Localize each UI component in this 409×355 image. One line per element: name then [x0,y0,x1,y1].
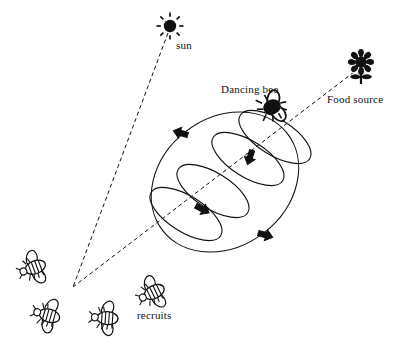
sun-bearing-line [73,33,168,287]
bearing-lines [73,33,354,287]
recruit-bee-icon [88,298,120,338]
sun-label: sun [176,39,192,51]
dancing-bee-label: Dancing bee [221,83,278,95]
waggle-arrow-upper [242,149,257,167]
recruit-bee-icon [11,246,51,291]
sun-icon [157,13,184,40]
outer-ellipse-upper-left-arrow [172,125,190,140]
waggle-dance-path [142,100,320,251]
recruit-bee-icon [26,292,64,336]
flower-icon [347,48,374,84]
waggle-dance-illustration [0,0,409,355]
food-bearing-line [73,72,354,287]
recruit-bees-group [11,246,172,338]
comb-outline [123,83,326,281]
outer-ellipse-lower-right-arrow [257,228,275,243]
recruits-label: recruits [137,309,172,321]
diagram-canvas: sun Food source Dancing bee recruits [0,0,409,355]
food-source-label: Food source [327,93,383,105]
